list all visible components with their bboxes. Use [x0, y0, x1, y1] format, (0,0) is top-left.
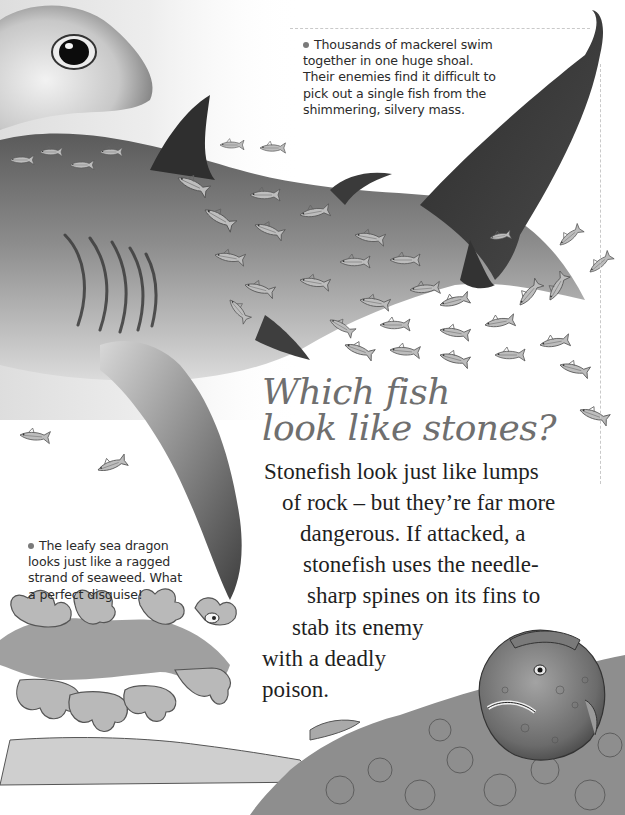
- fact-line: a perfect disguise!: [28, 587, 182, 603]
- body-line: Stonefish look just like lumps: [264, 456, 539, 487]
- page-divider-top: [290, 28, 590, 29]
- book-page: Thousands of mackerel swim together in o…: [0, 0, 625, 815]
- body-line: sharp spines on its fins to: [307, 580, 540, 611]
- body-line: of rock – but they’re far more: [282, 487, 555, 518]
- fact-mackerel: Thousands of mackerel swim together in o…: [303, 37, 496, 118]
- page-divider-right: [600, 64, 601, 484]
- fact-leafy-sea-dragon: The leafy sea dragon looks just like a r…: [28, 538, 182, 603]
- body-line: poison.: [262, 674, 329, 705]
- stonefish-illustration: [479, 630, 604, 760]
- fact-line: together in one huge shoal.: [303, 53, 496, 69]
- fact-line: strand of seaweed. What: [28, 570, 182, 586]
- title-line: Which fish: [262, 374, 556, 410]
- bullet-icon: [28, 543, 34, 549]
- body-line: with a deadly: [262, 643, 386, 674]
- fact-line: The leafy sea dragon: [39, 538, 169, 553]
- fact-line: Their enemies find it difficult to: [303, 69, 496, 85]
- fact-line: shimmering, silvery mass.: [303, 102, 496, 118]
- fact-line: pick out a single fish from the: [303, 86, 496, 102]
- title-line: look like stones?: [262, 410, 556, 446]
- fact-line: Thousands of mackerel swim: [314, 37, 493, 52]
- bullet-icon: [303, 42, 309, 48]
- body-line: stonefish uses the needle-: [303, 549, 539, 580]
- leafy-sea-dragon-illustration: [0, 589, 236, 732]
- body-line: dangerous. If attacked, a: [300, 518, 525, 549]
- body-line: stab its enemy: [292, 612, 424, 643]
- fact-line: looks just like a ragged: [28, 554, 182, 570]
- page-title: Which fish look like stones?: [262, 374, 556, 446]
